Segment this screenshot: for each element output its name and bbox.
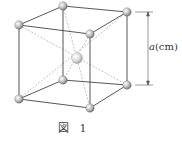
caption-number: 1 <box>80 122 87 135</box>
figure-caption: 図 1 <box>58 119 87 135</box>
bcc-unit-cell-diagram <box>0 0 182 141</box>
cube-back-edges <box>19 6 127 99</box>
center-atom <box>72 53 83 64</box>
caption-prefix: 図 <box>58 119 69 135</box>
dimension-label: a(cm) <box>149 41 178 52</box>
dimension-unit: (cm) <box>155 41 178 52</box>
